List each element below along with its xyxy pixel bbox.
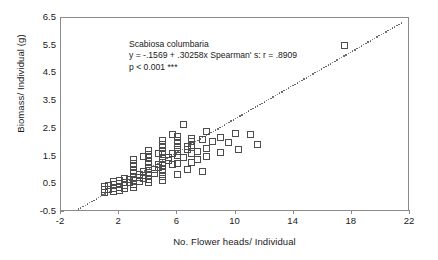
data-point-marker [188, 135, 195, 142]
data-point-marker [203, 153, 210, 160]
data-point-marker [247, 131, 254, 138]
regression-line-dot [277, 94, 278, 95]
regression-line-dot [98, 197, 99, 198]
x-axis-tick-labels: -22610141822 [60, 216, 409, 228]
regression-line-dot [233, 119, 234, 120]
x-axis-label: No. Flower heads/ Individual [60, 236, 409, 247]
regression-line-dot [89, 202, 90, 203]
regression-line-dot [226, 123, 227, 124]
regression-line-dot [91, 201, 92, 202]
regression-line-dot [390, 29, 391, 30]
regression-line-dot [356, 48, 357, 49]
regression-line-dot [394, 26, 395, 27]
regression-line-dot [270, 98, 271, 99]
regression-line-dot [230, 120, 231, 121]
regression-line-dot [365, 43, 366, 44]
regression-line-dot [283, 90, 284, 91]
regression-line-dot [286, 89, 287, 90]
regression-line-dot [182, 149, 183, 150]
regression-line-dot [288, 87, 289, 88]
data-point-marker [159, 137, 166, 144]
regression-line-dot [244, 113, 245, 114]
regression-line-dot [376, 36, 377, 37]
regression-line-dot [257, 105, 258, 106]
data-point-marker [217, 149, 224, 156]
regression-equation: y = -.1569 + .30258x Spearman' s: r = .8… [129, 50, 297, 61]
regression-line-dot [321, 68, 322, 69]
y-tick-label: 3.5 [26, 95, 56, 105]
regression-line-dot [387, 30, 388, 31]
regression-line-dot [261, 103, 262, 104]
data-point-marker [203, 128, 210, 135]
regression-line-dot [246, 112, 247, 113]
x-tick-label: 2 [98, 216, 138, 226]
regression-line-dot [343, 55, 344, 56]
y-tick-label: 0.5 [26, 178, 56, 188]
regression-line-dot [250, 109, 251, 110]
y-tick-label: 1.5 [26, 151, 56, 161]
data-point-marker [130, 184, 137, 191]
regression-line-dot [352, 50, 353, 51]
regression-line-dot [80, 207, 81, 208]
data-point-marker [180, 121, 187, 128]
data-point-marker [145, 147, 152, 154]
regression-line-dot [219, 127, 220, 128]
regression-line-dot [297, 82, 298, 83]
y-tick-label: 6.5 [26, 12, 56, 22]
data-point-marker [225, 139, 232, 146]
regression-line-dot [78, 208, 79, 209]
regression-line-dot [215, 129, 216, 130]
data-point-marker [174, 171, 181, 178]
regression-line-dot [332, 62, 333, 63]
regression-line-dot [239, 115, 240, 116]
regression-line-dot [336, 59, 337, 60]
regression-line-dot [281, 91, 282, 92]
regression-line-dot [82, 206, 83, 207]
regression-line-dot [96, 198, 97, 199]
regression-line-dot [272, 96, 273, 97]
regression-line-dot [359, 47, 360, 48]
regression-line-dot [325, 66, 326, 67]
x-tick-label: -2 [40, 216, 80, 226]
regression-line-dot [290, 86, 291, 87]
data-point-marker [254, 141, 261, 148]
regression-line-dot [361, 45, 362, 46]
regression-line-dot [213, 131, 214, 132]
data-point-marker [199, 168, 206, 175]
regression-line-dot [294, 84, 295, 85]
regression-line-dot [224, 124, 225, 125]
regression-line-dot [385, 31, 386, 32]
scatter-plot-figure: Biomass/ Individual (g) No. Flower heads… [0, 0, 438, 260]
regression-line-dot [317, 71, 318, 72]
data-point-marker [232, 130, 239, 137]
regression-line-dot [330, 63, 331, 64]
regression-line-dot [363, 44, 364, 45]
regression-line-dot [383, 33, 384, 34]
regression-line-dot [292, 85, 293, 86]
regression-line-dot [210, 132, 211, 133]
x-tick-label: 10 [215, 216, 255, 226]
y-tick-label: 5.5 [26, 40, 56, 50]
plot-frame: Scabiosa columbaria y = -.1569 + .30258x… [60, 17, 409, 211]
regression-line-dot [255, 106, 256, 107]
regression-line-dot [372, 39, 373, 40]
x-tick-mark [409, 210, 410, 214]
statistics-annotation: Scabiosa columbaria y = -.1569 + .30258x… [129, 39, 297, 73]
data-point-marker [180, 154, 187, 161]
regression-line-dot [228, 122, 229, 123]
data-point-marker [235, 146, 242, 153]
regression-line-dot [319, 70, 320, 71]
species-name: Scabiosa columbaria [129, 39, 297, 50]
data-point-marker [199, 136, 206, 143]
data-point-marker [174, 133, 181, 140]
regression-line-dot [334, 61, 335, 62]
regression-line-dot [367, 41, 368, 42]
regression-line-dot [299, 81, 300, 82]
data-point-marker [341, 42, 348, 49]
regression-line-dot [235, 118, 236, 119]
x-tick-label: 22 [389, 216, 429, 226]
x-tick-label: 14 [273, 216, 313, 226]
regression-line-dot [306, 77, 307, 78]
data-point-marker [121, 185, 128, 192]
regression-line-dot [398, 24, 399, 25]
